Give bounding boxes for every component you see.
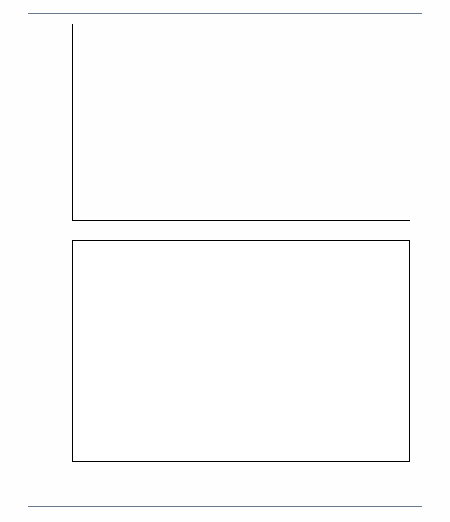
top-divider-rule bbox=[28, 13, 422, 14]
bottom-chart-y-axis bbox=[72, 240, 73, 462]
bottom-divider-rule bbox=[28, 506, 422, 507]
top-chart-x-axis bbox=[72, 220, 410, 221]
top-chart-plot-area bbox=[72, 24, 410, 220]
bottom-chart-plot-area bbox=[72, 240, 410, 462]
legend bbox=[88, 24, 89, 27]
figure-page bbox=[0, 0, 450, 522]
